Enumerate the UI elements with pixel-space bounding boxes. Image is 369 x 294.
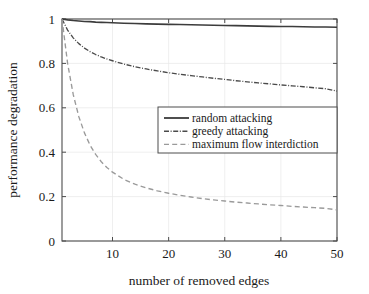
x-tick-label: 10 <box>106 246 119 261</box>
x-tick-label: 40 <box>274 246 287 261</box>
legend-label-random-attacking: random attacking <box>192 112 272 125</box>
y-tick-label: 0.2 <box>39 189 55 204</box>
y-tick-label: 0.8 <box>39 56 55 71</box>
y-tick-label: 1 <box>49 12 56 27</box>
x-axis-title: number of removed edges <box>129 273 270 288</box>
chart-legend: random attackinggreedy attackingmaximum … <box>158 107 337 153</box>
y-tick-label: 0.4 <box>39 145 56 160</box>
legend-label-greedy-attacking: greedy attacking <box>192 125 269 138</box>
y-tick-label: 0.6 <box>39 100 56 115</box>
x-tick-label: 30 <box>218 246 231 261</box>
chart-canvas: 1020304050 00.20.40.60.81 random attacki… <box>0 0 369 294</box>
legend-label-maximum-flow-interdiction: maximum flow interdiction <box>192 138 319 150</box>
y-tick-label: 0 <box>49 234 56 249</box>
chart-figure: 1020304050 00.20.40.60.81 random attacki… <box>0 0 369 294</box>
x-tick-label: 50 <box>331 246 344 261</box>
y-axis-title: performance degradation <box>5 62 20 198</box>
x-tick-label: 20 <box>162 246 175 261</box>
